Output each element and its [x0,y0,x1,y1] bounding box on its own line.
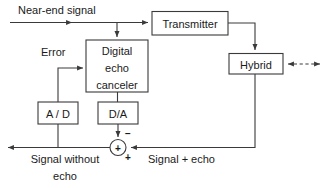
summer-minus-sign: − [125,128,131,139]
hybrid-label: Hybrid [240,59,272,71]
signal-without-echo-label-line1: Signal without [31,153,100,165]
transmitter-to-hybrid-path [228,23,255,50]
dac-block: D/A [98,102,138,124]
hybrid-to-summer-path [131,74,255,148]
near-end-signal-label: Near-end signal [18,4,96,16]
canceler-label-line3: canceler [96,79,138,91]
echo-canceler-diagram: Near-end signal Transmitter Hybrid Digit… [0,0,328,188]
near-end-signal-path [10,23,148,38]
summer-plus-symbol: + [115,143,121,154]
adc-label: A / D [46,108,70,120]
dac-label: D/A [109,108,128,120]
transmitter-block: Transmitter [152,12,228,36]
adc-block: A / D [38,102,78,124]
error-label: Error [41,46,66,58]
error-feedback-path [58,68,83,102]
signal-without-echo-label-line2: echo [53,170,77,182]
hybrid-block: Hybrid [229,54,283,75]
canceler-label-line2: echo [105,62,129,74]
signal-plus-echo-label: Signal + echo [148,153,215,165]
summer-plus-sign: + [125,152,131,163]
digital-echo-canceler-block: Digital echo canceler [86,40,148,92]
canceler-label-line1: Digital [102,45,133,57]
transmitter-label: Transmitter [162,18,218,30]
summing-junction: + − + [110,128,131,163]
diagram-canvas: Near-end signal Transmitter Hybrid Digit… [0,0,328,188]
